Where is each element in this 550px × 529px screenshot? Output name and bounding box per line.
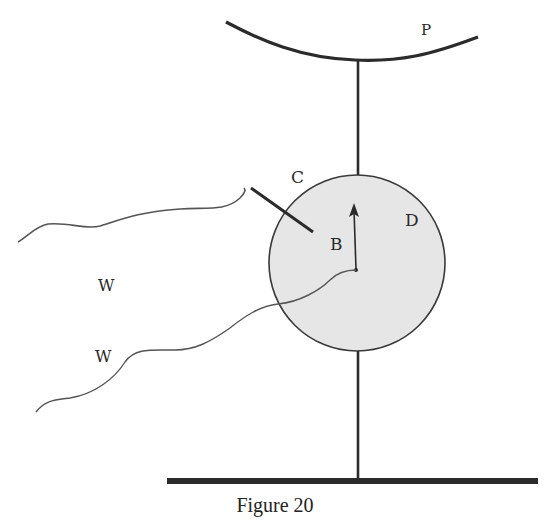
sphere	[269, 175, 445, 351]
figure-caption: Figure 20	[0, 494, 550, 517]
label-c: C	[291, 167, 304, 187]
curved-plate-p	[226, 22, 478, 60]
label-d: D	[405, 210, 419, 230]
label-b: B	[330, 234, 343, 254]
wire-upper	[18, 188, 245, 242]
label-w-upper: W	[98, 276, 115, 295]
label-w-lower: W	[95, 347, 112, 366]
label-p: P	[421, 21, 431, 39]
diagram-figure: P C B D W W	[0, 0, 550, 529]
